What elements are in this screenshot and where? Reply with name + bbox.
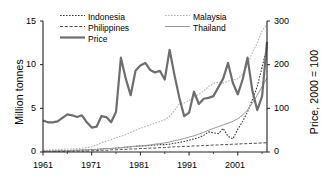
legend-label-philippines: Philippines (88, 23, 129, 33)
legend-label-malaysia: Malaysia (193, 12, 227, 22)
series-line-price (43, 42, 267, 128)
y2-tick-label-0: 0 (274, 146, 300, 156)
series-line-malaysia (43, 24, 267, 150)
chart-figure: Million tonnes Price, 2000 = 100 15 10 5… (0, 0, 321, 185)
y2-tick-label-200: 200 (274, 59, 300, 69)
series-line-indonesia (43, 47, 267, 151)
y-tick-label-5: 5 (14, 103, 36, 113)
y-axis-right-title: Price, 2000 = 100 (308, 27, 320, 157)
y-tick-label-0: 0 (14, 146, 36, 156)
plot-area (0, 0, 321, 185)
legend-label-thailand: Thailand (193, 23, 226, 33)
x-tick-label-2001: 2001 (218, 160, 252, 170)
y-tick-label-10: 10 (14, 59, 36, 69)
legend-label-indonesia: Indonesia (88, 12, 125, 22)
x-tick-label-1981: 1981 (122, 160, 156, 170)
x-tick-label-1971: 1971 (74, 160, 108, 170)
y-tick-label-15: 15 (14, 16, 36, 26)
series-line-thailand (43, 78, 267, 151)
x-tick-label-1991: 1991 (170, 160, 204, 170)
y2-tick-label-100: 100 (274, 103, 300, 113)
y2-tick-label-300: 300 (274, 16, 300, 26)
legend-label-price: Price (88, 34, 107, 44)
series-layer (43, 24, 267, 151)
x-tick-label-1961: 1961 (26, 160, 60, 170)
